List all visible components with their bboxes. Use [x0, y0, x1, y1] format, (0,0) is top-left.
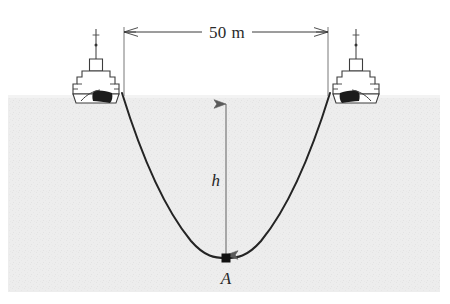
figure-container: 50 m h A — [0, 0, 450, 304]
left-ship — [73, 29, 119, 103]
span-dimension-label: 50 m — [209, 23, 245, 42]
point-a-marker — [222, 254, 231, 263]
depth-dimension-label: h — [212, 171, 221, 190]
cable-ship-diagram: 50 m h A — [0, 0, 450, 304]
right-ship — [333, 29, 379, 103]
point-a-label: A — [220, 269, 232, 288]
